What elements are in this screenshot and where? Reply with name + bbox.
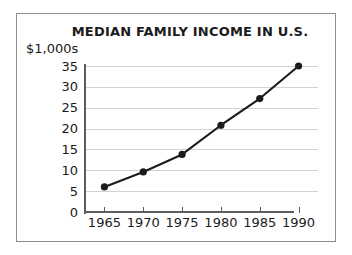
y-axis-tick-label: 30 xyxy=(46,80,78,93)
x-axis-tick-mark xyxy=(143,207,144,213)
gridline xyxy=(85,66,318,67)
x-axis-tick-mark xyxy=(104,207,105,213)
x-axis-tick-mark xyxy=(299,207,300,213)
x-axis-tick-label: 1970 xyxy=(123,216,163,229)
gridline xyxy=(85,170,318,171)
gridline xyxy=(85,108,318,109)
x-axis-tick-label: 1985 xyxy=(240,216,280,229)
x-axis-line xyxy=(84,211,294,213)
y-axis-tick-label: 25 xyxy=(46,101,78,114)
chart-figure: MEDIAN FAMILY INCOME IN U.S. $1,000s 051… xyxy=(0,0,352,255)
gridline xyxy=(85,87,318,88)
x-axis-tick-mark xyxy=(260,207,261,213)
x-axis-tick-label: 1965 xyxy=(84,216,124,229)
y-axis-line xyxy=(84,64,86,214)
chart-title: MEDIAN FAMILY INCOME IN U.S. xyxy=(60,24,320,39)
x-axis-tick-mark xyxy=(182,207,183,213)
y-axis-tick-label: 20 xyxy=(46,122,78,135)
y-axis-tick-label: 5 xyxy=(46,185,78,198)
gridline xyxy=(85,129,318,130)
y-axis-label: $1,000s xyxy=(26,41,78,56)
gridline xyxy=(85,191,318,192)
x-axis-tick-label: 1980 xyxy=(201,216,241,229)
x-axis-tick-label: 1975 xyxy=(162,216,202,229)
x-axis-tick-mark xyxy=(221,207,222,213)
y-axis-tick-label: 0 xyxy=(46,206,78,219)
x-axis-tick-label: 1990 xyxy=(279,216,319,229)
gridline xyxy=(85,149,318,150)
y-axis-tick-label: 10 xyxy=(46,164,78,177)
y-axis-tick-label: 35 xyxy=(46,60,78,73)
y-axis-tick-label: 15 xyxy=(46,143,78,156)
plot-area xyxy=(85,66,318,212)
